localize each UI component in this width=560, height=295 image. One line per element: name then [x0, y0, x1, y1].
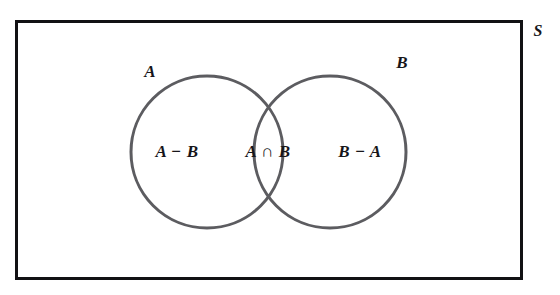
region-label-b-minus-a: B − A [337, 142, 381, 161]
set-a-label: A [143, 62, 155, 81]
venn-diagram-canvas: S A B A − B A ∩ B B − A [0, 0, 560, 295]
universe-label: S [534, 22, 543, 39]
venn-diagram-figure: S A B A − B A ∩ B B − A [0, 0, 560, 295]
set-b-label: B [395, 53, 407, 72]
region-label-a-minus-b: A − B [154, 142, 198, 161]
region-label-a-intersect-b: A ∩ B [245, 142, 291, 161]
